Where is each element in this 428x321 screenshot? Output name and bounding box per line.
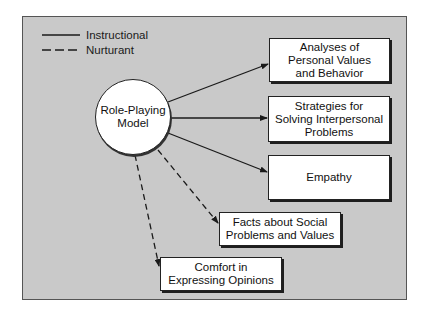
outcome-label: Analyses of Personal Values and Behavior bbox=[288, 41, 371, 80]
role-playing-model-node: Role-Playing Model bbox=[95, 79, 171, 155]
outcome-label: Strategies for Solving Interpersonal Pro… bbox=[275, 100, 383, 139]
outcome-box-empathy: Empathy bbox=[268, 155, 390, 200]
outcome-box-analyses: Analyses of Personal Values and Behavior bbox=[269, 38, 390, 82]
outcome-label: Comfort in Expressing Opinions bbox=[168, 261, 273, 287]
center-node-label: Role-Playing Model bbox=[100, 104, 165, 130]
arrow-to-empathy bbox=[168, 133, 267, 172]
arrow-to-analyses bbox=[168, 64, 268, 102]
outcome-box-comfort: Comfort in Expressing Opinions bbox=[160, 257, 282, 291]
legend-label-instructional: Instructional bbox=[86, 29, 148, 42]
outcome-box-strategies: Strategies for Solving Interpersonal Pro… bbox=[268, 96, 390, 142]
outcome-box-facts: Facts about Social Problems and Values bbox=[219, 212, 341, 246]
legend-label-nurturant: Nurturant bbox=[86, 44, 134, 57]
arrow-to-comfort bbox=[135, 155, 159, 266]
outcome-label: Empathy bbox=[306, 171, 351, 184]
outcome-label: Facts about Social Problems and Values bbox=[226, 216, 334, 242]
arrow-to-facts bbox=[158, 150, 218, 223]
